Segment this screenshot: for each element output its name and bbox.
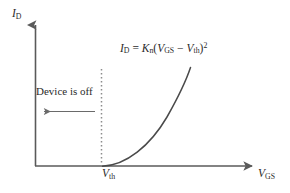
x-axis-label-subscript: GS <box>265 172 275 181</box>
threshold-label-symbol: V <box>102 167 109 179</box>
equation-exponent: 2 <box>203 41 207 50</box>
equation-annotation: ID = Kn(VGS − Vth)2 <box>120 42 207 55</box>
y-axis-label-subscript: D <box>16 12 22 21</box>
x-axis-label: VGS <box>258 168 275 181</box>
mosfet-transfer-characteristic-figure: ID VGS Vth ID = Kn(VGS − Vth)2 Device is… <box>0 0 290 193</box>
x-axis-label-symbol: V <box>258 167 265 179</box>
transfer-curve <box>103 68 191 167</box>
device-off-label: Device is off <box>36 86 93 97</box>
y-axis-label: ID <box>12 8 22 21</box>
threshold-label-subscript: th <box>109 172 115 181</box>
equation-term1-subscript: GS <box>164 46 174 55</box>
threshold-label: Vth <box>102 168 115 181</box>
